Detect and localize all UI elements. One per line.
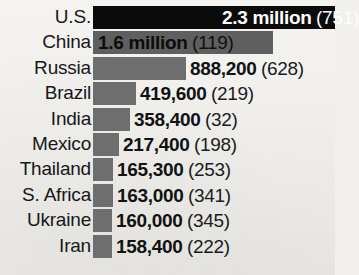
bar-track: 358,400 (32) (93, 108, 335, 131)
bar-row: Mexico217,400 (198) (0, 132, 335, 157)
bar-secondary-value: (198) (194, 134, 237, 155)
bar-value: 160,000 (116, 210, 183, 231)
bar-row: Russia888,200 (628) (0, 56, 335, 81)
bar-secondary-value: (341) (188, 185, 231, 206)
bar-value: 888,200 (190, 58, 257, 79)
bar-value: 158,400 (116, 236, 183, 257)
bar-value-group: 358,400 (32) (134, 108, 238, 131)
bar-value-group: 165,300 (253) (117, 158, 231, 181)
bar-row-label: U.S. (0, 5, 91, 30)
bar-row-label: Mexico (0, 132, 91, 157)
bar-row: Iran158,400 (222) (0, 234, 335, 259)
bar-secondary-value: (253) (188, 159, 231, 180)
bar-row-label: India (0, 107, 91, 132)
bar-value-group: 1.6 million (119) (98, 31, 234, 54)
bar-row: Thailand165,300 (253) (0, 157, 335, 182)
bar-row: India358,400 (32) (0, 107, 335, 132)
bar-track: 158,400 (222) (93, 235, 335, 258)
bar-row: S. Africa163,000 (341) (0, 183, 335, 208)
bar (93, 158, 113, 181)
bar (93, 82, 136, 105)
bar-value: 2.3 million (222, 7, 312, 28)
bar-row: China1.6 million (119) (0, 30, 335, 55)
bar-secondary-value: (628) (261, 58, 304, 79)
bar-row: Ukraine160,000 (345) (0, 208, 335, 233)
bar-secondary-value: (119) (192, 32, 233, 53)
bar-value: 165,300 (117, 159, 184, 180)
bar (93, 57, 186, 80)
bar-value-group: 163,000 (341) (117, 184, 231, 207)
bar-row-label: S. Africa (0, 183, 91, 208)
bar-row: Brazil419,600 (219) (0, 81, 335, 106)
bar-value: 1.6 million (98, 32, 188, 53)
bar-value-group: 217,400 (198) (123, 133, 237, 156)
bar-row-label: China (0, 30, 91, 55)
bar (93, 235, 112, 258)
bar-row-label: Russia (0, 56, 91, 81)
bar-value-group: 160,000 (345) (116, 209, 230, 232)
bar-secondary-value: (222) (187, 236, 230, 257)
bar (93, 133, 119, 156)
bar-track: 217,400 (198) (93, 133, 335, 156)
bar-track: 163,000 (341) (93, 184, 335, 207)
bar-value-group: 158,400 (222) (116, 235, 230, 258)
bar-value: 217,400 (123, 134, 190, 155)
bar-row-label: Thailand (0, 157, 91, 182)
bar-value-group: 419,600 (219) (140, 82, 254, 105)
bar-row-label: Iran (0, 234, 91, 259)
bar-value-group: 2.3 million (751) (222, 6, 359, 29)
bar-secondary-value: (32) (205, 109, 238, 130)
bar-track: 160,000 (345) (93, 209, 335, 232)
bar (93, 209, 112, 232)
bar (93, 184, 113, 207)
bar-row-label: Brazil (0, 81, 91, 106)
bar-value-group: 888,200 (628) (190, 57, 304, 80)
bar-secondary-value: (219) (211, 83, 254, 104)
bar-track: 888,200 (628) (93, 57, 335, 80)
bar-track: 165,300 (253) (93, 158, 335, 181)
bar-track: 419,600 (219) (93, 82, 335, 105)
bar-row: U.S.2.3 million (751) (0, 5, 335, 30)
bar-row-label: Ukraine (0, 208, 91, 233)
bar-value: 419,600 (140, 83, 207, 104)
bar-value: 163,000 (117, 185, 184, 206)
bar-value: 358,400 (134, 109, 201, 130)
bar-track: 1.6 million (119) (93, 31, 335, 54)
bar (93, 108, 130, 131)
bar-secondary-value: (345) (187, 210, 230, 231)
bar-track: 2.3 million (751) (93, 6, 335, 29)
bar-secondary-value: (751) (316, 7, 359, 28)
